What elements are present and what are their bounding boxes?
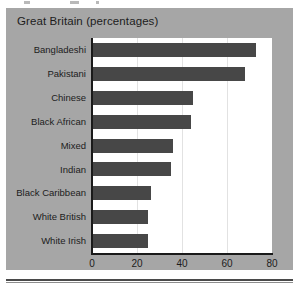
- chart-panel: Great Britain (percentages): [6, 8, 293, 270]
- bar-bangladeshi[interactable]: [92, 43, 256, 57]
- category-label-white-irish: White Irish: [41, 235, 86, 246]
- bar-white-british[interactable]: [92, 210, 148, 224]
- xtick-label-60: 60: [214, 258, 240, 269]
- bar-row: [92, 62, 272, 86]
- category-label-black-african: Black African: [31, 116, 86, 127]
- bar-chinese[interactable]: [92, 91, 193, 105]
- category-label-white-british: White British: [33, 211, 86, 222]
- bar-white-irish[interactable]: [92, 234, 148, 248]
- bottom-divider-shadow: [6, 282, 293, 283]
- bar-pakistani[interactable]: [92, 67, 245, 81]
- bar-row: [92, 157, 272, 181]
- bottom-divider: [6, 279, 293, 281]
- bar-row: [92, 86, 272, 110]
- bar-row: [92, 38, 272, 62]
- xtick-label-20: 20: [124, 258, 150, 269]
- category-label-mixed: Mixed: [61, 140, 86, 151]
- chart-title: Great Britain (percentages): [17, 15, 158, 27]
- category-label-indian: Indian: [60, 164, 86, 175]
- y-axis-line: [91, 38, 93, 254]
- xtick-label-0: 0: [79, 258, 105, 269]
- category-label-chinese: Chinese: [51, 92, 86, 103]
- category-label-black-caribbean: Black Caribbean: [16, 187, 86, 198]
- bar-indian[interactable]: [92, 162, 171, 176]
- category-label-pakistani: Pakistani: [47, 68, 86, 79]
- bar-row: [92, 134, 272, 158]
- bar-row: [92, 205, 272, 229]
- bar-black-african[interactable]: [92, 115, 191, 129]
- xtick-label-40: 40: [169, 258, 195, 269]
- bar-black-caribbean[interactable]: [92, 186, 151, 200]
- bar-mixed[interactable]: [92, 139, 173, 153]
- x-axis-line: [91, 253, 273, 255]
- bar-row: [92, 229, 272, 253]
- xtick-label-80: 80: [259, 258, 285, 269]
- clipped-top-sliver: [0, 0, 299, 5]
- bar-row: [92, 110, 272, 134]
- bar-row: [92, 181, 272, 205]
- category-label-bangladeshi: Bangladeshi: [34, 44, 86, 55]
- plot-area: [92, 38, 272, 253]
